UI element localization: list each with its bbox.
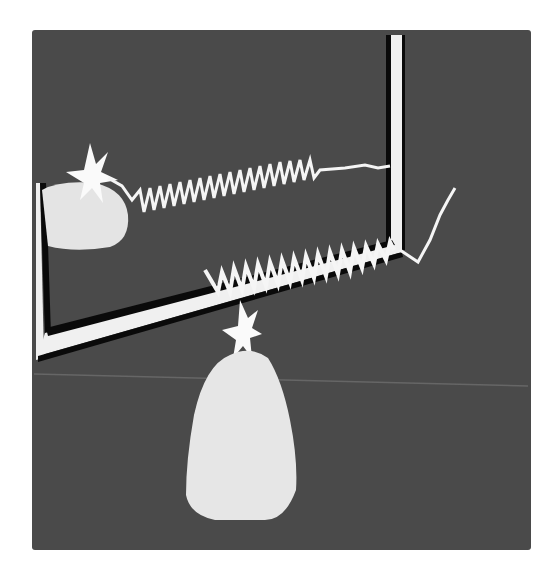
scene-illustration — [0, 0, 552, 577]
rendered-scene — [0, 0, 552, 577]
